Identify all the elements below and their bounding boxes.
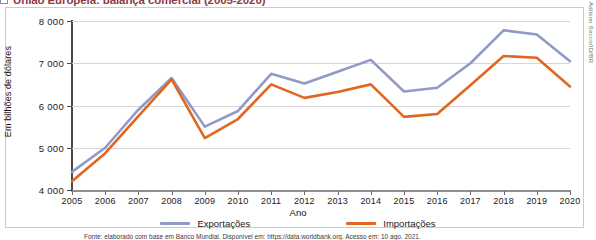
x-axis-tick-label: 2014 bbox=[360, 196, 381, 206]
x-axis-tick bbox=[138, 191, 139, 195]
x-axis-tick-label: 2009 bbox=[194, 196, 215, 206]
legend-label: Exportações bbox=[197, 218, 250, 229]
x-axis-tick-label: 2006 bbox=[95, 196, 116, 206]
x-axis-tick-label: 2010 bbox=[228, 196, 249, 206]
x-axis-tick bbox=[470, 191, 471, 195]
legend-swatch-icon bbox=[160, 222, 190, 225]
x-axis-tick bbox=[404, 191, 405, 195]
chart-title-row: União Europeia: balança comercial (2005-… bbox=[0, 0, 265, 7]
x-axis-tick-label: 2011 bbox=[261, 196, 281, 206]
y-axis-tick-label: 5 000 bbox=[24, 142, 64, 153]
legend-square-marker-icon bbox=[0, 0, 8, 4]
x-axis-tick bbox=[271, 191, 272, 195]
chart-figure: União Europeia: balança comercial (2005-… bbox=[0, 0, 596, 240]
source-caption: Fonte: elaborado com base em Banco Mundi… bbox=[84, 233, 586, 240]
x-axis-tick-label: 2019 bbox=[526, 196, 547, 206]
x-axis-tick-label: 2012 bbox=[294, 196, 315, 206]
x-axis-tick bbox=[72, 191, 73, 195]
x-axis-tick-label: 2020 bbox=[560, 196, 581, 206]
series-line-importações bbox=[72, 56, 570, 181]
x-axis-tick bbox=[371, 191, 372, 195]
legend-label: Importações bbox=[383, 218, 435, 229]
x-axis-tick bbox=[205, 191, 206, 195]
x-axis-tick-label: 2015 bbox=[394, 196, 415, 206]
plot-area bbox=[72, 21, 570, 190]
y-axis-title: Em bilhões de dólares bbox=[3, 46, 13, 137]
x-axis-tick-label: 2017 bbox=[460, 196, 481, 206]
x-axis-title: Ano bbox=[0, 207, 596, 218]
legend-item[interactable]: Importações bbox=[346, 218, 435, 229]
y-axis-tick-label: 8 000 bbox=[24, 16, 64, 27]
y-axis-tick-label: 4 000 bbox=[24, 185, 64, 196]
y-axis-tick-label: 6 000 bbox=[24, 100, 64, 111]
x-axis-tick bbox=[570, 191, 571, 195]
x-axis-tick bbox=[537, 191, 538, 195]
series-line-exportações bbox=[72, 30, 570, 172]
x-axis-tick bbox=[172, 191, 173, 195]
x-axis-tick bbox=[105, 191, 106, 195]
series-lines bbox=[72, 21, 570, 190]
chart-title: União Europeia: balança comercial (2005-… bbox=[13, 0, 265, 6]
x-axis-tick bbox=[238, 191, 239, 195]
x-axis-tick-label: 2016 bbox=[427, 196, 448, 206]
legend-swatch-icon bbox=[346, 222, 376, 225]
x-axis-tick bbox=[504, 191, 505, 195]
x-axis-tick-label: 2013 bbox=[327, 196, 348, 206]
x-axis-tick bbox=[338, 191, 339, 195]
x-axis-tick-label: 2005 bbox=[62, 196, 83, 206]
x-axis-tick bbox=[304, 191, 305, 195]
x-axis-tick-label: 2007 bbox=[128, 196, 149, 206]
legend-item[interactable]: Exportações bbox=[160, 218, 250, 229]
x-axis-tick-label: 2018 bbox=[493, 196, 514, 206]
image-credit: Adilson Secco/ID/BR bbox=[588, 2, 595, 63]
y-axis-tick-label: 7 000 bbox=[24, 58, 64, 69]
x-axis-tick bbox=[437, 191, 438, 195]
chart-legend: ExportaçõesImportações bbox=[0, 218, 596, 229]
x-axis-tick-label: 2008 bbox=[161, 196, 182, 206]
